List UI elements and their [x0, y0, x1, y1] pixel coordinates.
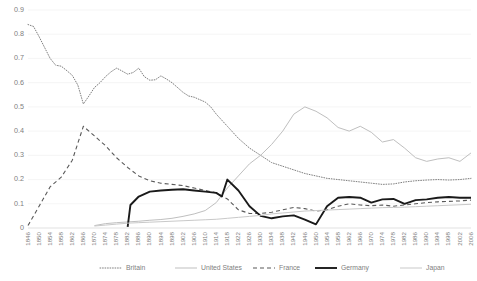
- plot-series-group: [28, 25, 471, 227]
- y-tick-label: 0.3: [14, 150, 24, 159]
- x-tick-label: 1950: [312, 231, 319, 245]
- x-tick-label: 1902: [179, 231, 186, 245]
- x-tick-label: 1878: [112, 231, 119, 245]
- x-tick-label: 1934: [267, 231, 274, 245]
- x-tick-label: 1898: [168, 231, 175, 245]
- x-tick-label: 1906: [190, 231, 197, 245]
- legend-label-britain[interactable]: Britain: [126, 264, 145, 271]
- x-tick-label: 1954: [323, 231, 330, 245]
- x-tick-label: 1866: [79, 231, 86, 245]
- y-tick-label: 0.6: [14, 78, 24, 87]
- series-line-britain: [28, 25, 471, 185]
- legend-label-france[interactable]: France: [279, 264, 300, 271]
- x-tick-label: 1982: [400, 231, 407, 245]
- x-tick-label: 1938: [278, 231, 285, 245]
- y-tick-label: 0.8: [14, 29, 24, 38]
- y-tick-label: 0: [20, 223, 24, 232]
- x-tick-label: 1882: [123, 231, 130, 245]
- legend-label-japan[interactable]: Japan: [426, 264, 445, 272]
- y-tick-label: 0.9: [14, 5, 24, 14]
- y-axis-tick-labels: 00.10.20.30.40.50.60.70.80.9: [14, 5, 24, 232]
- x-tick-label: 2006: [467, 231, 474, 245]
- x-tick-label: 1958: [334, 231, 341, 245]
- x-tick-label: 1858: [57, 231, 64, 245]
- series-line-germany: [128, 180, 471, 227]
- x-tick-label: 1990: [422, 231, 429, 245]
- x-tick-label: 1854: [46, 231, 53, 245]
- x-tick-label: 1846: [24, 231, 31, 245]
- y-tick-label: 0.5: [14, 102, 24, 111]
- x-tick-label: 1962: [345, 231, 352, 245]
- chart-legend: BritainUnited StatesFranceGermanyJapan: [100, 264, 445, 272]
- x-tick-label: 1986: [411, 231, 418, 245]
- x-tick-label: 1974: [378, 231, 385, 245]
- series-line-france: [28, 126, 471, 225]
- x-tick-label: 1970: [367, 231, 374, 245]
- x-axis-tick-labels: 1846185018541858186218661870187418781882…: [24, 231, 474, 245]
- legend-label-united-states[interactable]: United States: [201, 264, 242, 271]
- chart-canvas: 00.10.20.30.40.50.60.70.80.9 18461850185…: [0, 0, 477, 281]
- x-tick-label: 1886: [134, 231, 141, 245]
- x-tick-label: 1910: [201, 231, 208, 245]
- x-tick-label: 1946: [301, 231, 308, 245]
- x-tick-label: 1922: [234, 231, 241, 245]
- y-tick-label: 0.4: [14, 126, 24, 135]
- series-line-japan: [94, 204, 471, 226]
- x-tick-label: 1914: [212, 231, 219, 245]
- y-tick-label: 0.1: [14, 199, 24, 208]
- x-tick-label: 1850: [35, 231, 42, 245]
- y-tick-label: 0.7: [14, 53, 24, 62]
- x-tick-label: 1994: [433, 231, 440, 245]
- legend-label-germany[interactable]: Germany: [341, 264, 370, 272]
- gridlines: [28, 10, 471, 228]
- x-tick-label: 1894: [157, 231, 164, 245]
- y-tick-label: 0.2: [14, 174, 24, 183]
- line-chart: 00.10.20.30.40.50.60.70.80.9 18461850185…: [0, 0, 477, 281]
- x-tick-label: 1998: [444, 231, 451, 245]
- x-tick-label: 1862: [68, 231, 75, 245]
- x-tick-label: 1874: [101, 231, 108, 245]
- x-tick-label: 1926: [245, 231, 252, 245]
- x-tick-label: 2002: [456, 231, 463, 245]
- x-tick-label: 1966: [356, 231, 363, 245]
- x-tick-label: 1942: [289, 231, 296, 245]
- x-tick-label: 1930: [256, 231, 263, 245]
- x-tick-label: 1870: [90, 231, 97, 245]
- x-tick-label: 1978: [389, 231, 396, 245]
- x-tick-label: 1918: [223, 231, 230, 245]
- x-tick-label: 1890: [145, 231, 152, 245]
